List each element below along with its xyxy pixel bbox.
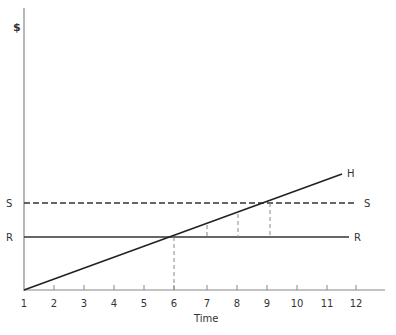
label-R-right: R [354, 232, 361, 243]
svg-text:10: 10 [291, 298, 304, 309]
svg-text:2: 2 [51, 298, 57, 309]
svg-text:11: 11 [321, 298, 334, 309]
svg-text:9: 9 [264, 298, 270, 309]
x-axis-label: Time [193, 313, 218, 324]
svg-text:5: 5 [141, 298, 147, 309]
svg-text:8: 8 [234, 298, 240, 309]
label-S-right: S [364, 198, 370, 209]
svg-text:12: 12 [350, 298, 363, 309]
svg-text:3: 3 [81, 298, 87, 309]
label-R-left: R [6, 232, 13, 243]
svg-text:1: 1 [21, 298, 27, 309]
svg-text:6: 6 [171, 298, 177, 309]
x-ticks [54, 285, 356, 290]
label-H: H [347, 168, 355, 179]
dashed-verticals [174, 203, 270, 290]
x-tick-labels: 1 2 3 4 5 6 7 8 9 10 11 12 [21, 298, 363, 309]
svg-text:7: 7 [204, 298, 210, 309]
svg-text:4: 4 [111, 298, 117, 309]
y-axis-label: $ [13, 21, 21, 34]
chart: $ 1 2 3 4 5 6 7 8 9 10 11 12 Time S S R … [0, 0, 396, 335]
series-H [24, 174, 342, 290]
label-S-left: S [6, 198, 12, 209]
